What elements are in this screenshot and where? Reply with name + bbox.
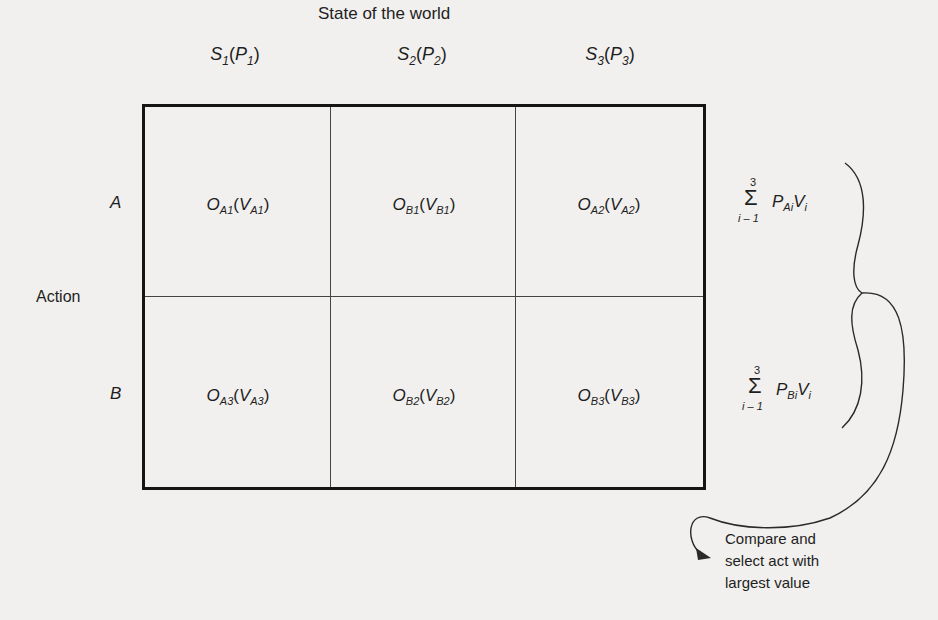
brace-and-arrow bbox=[0, 0, 938, 620]
arrowhead-icon bbox=[696, 548, 711, 560]
conclusion-line-3: largest value bbox=[725, 572, 819, 594]
curved-arrow-icon bbox=[691, 293, 905, 553]
conclusion-line-2: select act with bbox=[725, 550, 819, 572]
curly-brace-icon bbox=[842, 163, 864, 428]
conclusion-line-1: Compare and bbox=[725, 528, 819, 550]
conclusion-note: Compare and select act with largest valu… bbox=[725, 528, 819, 594]
